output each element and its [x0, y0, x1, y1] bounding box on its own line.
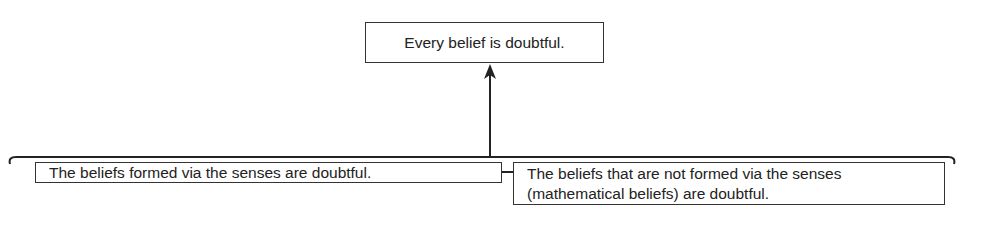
- conclusion-box: Every belief is doubtful.: [365, 22, 604, 63]
- premise-text-1: The beliefs formed via the senses are do…: [49, 163, 371, 183]
- premise-box-1: The beliefs formed via the senses are do…: [35, 162, 502, 183]
- premise-box-2: The beliefs that are not formed via the …: [513, 162, 945, 205]
- conclusion-text: Every belief is doubtful.: [404, 33, 564, 53]
- premise-text-2: The beliefs that are not formed via the …: [527, 165, 841, 202]
